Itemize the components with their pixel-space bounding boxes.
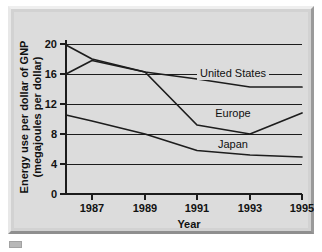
x-tick-label-1989: 1989 bbox=[133, 202, 157, 214]
y-axis-title-line2: (megajoules per dollar) bbox=[31, 56, 43, 177]
x-tick-label-1991: 1991 bbox=[185, 202, 209, 214]
series-line-united-states bbox=[66, 45, 302, 87]
x-tick-label-1993: 1993 bbox=[238, 202, 262, 214]
y-tick-label-8: 8 bbox=[51, 128, 57, 140]
series-label-united-states-group: United States bbox=[197, 67, 269, 80]
y-tick-label-20: 20 bbox=[45, 38, 57, 50]
figure-caption-mark bbox=[9, 241, 22, 248]
y-tick-label-12: 12 bbox=[45, 98, 57, 110]
y-axis-title: Energy use per dollar of GNP (megajoules… bbox=[18, 41, 43, 194]
x-axis-title: Year bbox=[177, 218, 201, 230]
y-tick-label-16: 16 bbox=[45, 68, 57, 80]
y-axis-title-line1: Energy use per dollar of GNP bbox=[18, 41, 30, 194]
series-label-japan-group: Japan bbox=[214, 138, 253, 151]
y-tick-marks bbox=[60, 44, 66, 194]
figure-frame: 20 16 12 8 4 0 1987 1989 1991 1993 bbox=[8, 6, 314, 234]
y-tick-label-4: 4 bbox=[51, 158, 58, 170]
series-line-japan bbox=[66, 115, 302, 157]
line-chart: 20 16 12 8 4 0 1987 1989 1991 1993 bbox=[14, 12, 320, 240]
x-tick-marks bbox=[92, 194, 302, 200]
x-tick-label-1995: 1995 bbox=[290, 202, 314, 214]
x-tick-label-1987: 1987 bbox=[80, 202, 104, 214]
series-label-japan: Japan bbox=[218, 138, 248, 150]
series-label-united-states: United States bbox=[200, 67, 267, 79]
series-label-europe: Europe bbox=[215, 107, 250, 119]
figure-inner-panel: 20 16 12 8 4 0 1987 1989 1991 1993 bbox=[14, 12, 308, 228]
y-tick-label-0: 0 bbox=[51, 188, 57, 200]
series-label-europe-group: Europe bbox=[211, 107, 255, 120]
chart-svg: 20 16 12 8 4 0 1987 1989 1991 1993 bbox=[14, 12, 314, 234]
